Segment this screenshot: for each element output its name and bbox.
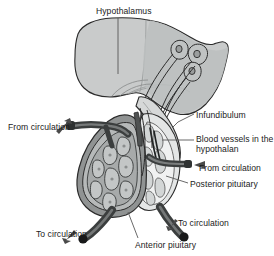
- leader-anterior: [128, 212, 138, 238]
- pituitary-diagram-figure: Hypothalamus Infundibulum Blood vessels …: [0, 0, 274, 256]
- label-hypothalamus: Hypothalamus: [96, 6, 152, 16]
- label-anterior-pituitary: Anterior piuitary: [135, 240, 196, 250]
- label-infundibulum: Infundibulum: [196, 110, 246, 120]
- neuron-cell-body: [171, 40, 188, 59]
- label-blood-vessels-in-hypothalamus: Blood vessels in the hypothalan: [196, 134, 274, 154]
- label-to-circulation-right: To circulation: [178, 218, 229, 228]
- label-posterior-pituitary: Posterior pituitary: [190, 179, 258, 189]
- neuron-cell-body: [188, 44, 207, 64]
- leader-infundibulum: [172, 114, 194, 128]
- neuron-cell-body: [184, 62, 201, 81]
- label-from-circulation-right: From circulation: [199, 163, 261, 173]
- label-from-circulation-left: From circulation: [8, 122, 70, 132]
- label-to-circulation-left: To circulation: [36, 229, 87, 239]
- anterior-pituitary: [77, 115, 146, 217]
